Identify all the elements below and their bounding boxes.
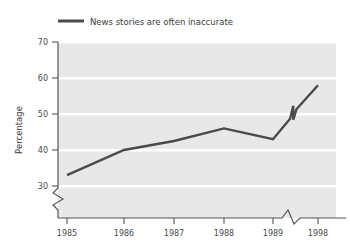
x-tick-label-1998: 1998 [308, 229, 328, 238]
gridline-60 [58, 77, 336, 80]
chart-legend: News stories are often inaccurate [58, 17, 233, 27]
y-tick-label-60: 60 [38, 74, 48, 83]
y-axis: 70 60 50 40 30 Percentage [14, 38, 63, 218]
plot-background [58, 42, 336, 218]
y-tick-label-50: 50 [38, 110, 48, 119]
y-tick-label-30: 30 [38, 182, 48, 191]
y-tick-label-70: 70 [38, 38, 48, 47]
x-tick-label-1986: 1986 [114, 229, 134, 238]
line-chart: News stories are often inaccurate 70 60 … [0, 0, 350, 247]
x-tick-label-1985: 1985 [57, 229, 77, 238]
gridline-30 [58, 185, 336, 188]
x-tick-label-1989: 1989 [263, 229, 283, 238]
chart-container: News stories are often inaccurate 70 60 … [0, 0, 350, 247]
y-tick-label-40: 40 [38, 146, 48, 155]
gridline-70 [58, 41, 336, 44]
x-tick-label-1987: 1987 [164, 229, 184, 238]
x-tick-label-1988: 1988 [214, 229, 234, 238]
legend-label-0: News stories are often inaccurate [90, 17, 233, 27]
y-axis-title: Percentage [14, 106, 24, 154]
gridline-40 [58, 149, 336, 152]
